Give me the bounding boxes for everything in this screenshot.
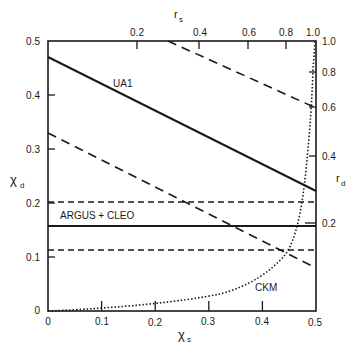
x-tick-label: 0.5 <box>308 317 322 328</box>
ua1-lower-dashed <box>48 133 316 268</box>
ua1-upper-dashed <box>168 41 316 108</box>
ckm-label: CKM <box>255 282 277 293</box>
right-axis <box>305 72 316 226</box>
y-tick-label: 0.4 <box>26 90 40 101</box>
ckm-curve <box>48 42 315 311</box>
argus-cleo-label: ARGUS + CLEO <box>60 210 134 221</box>
svg-text:s: s <box>187 335 191 344</box>
top-tick-label: 0.4 <box>193 27 207 38</box>
top-tick-label: 0.8 <box>279 27 293 38</box>
y-tick-label: 0.1 <box>26 252 40 263</box>
svg-text:s: s <box>179 15 183 24</box>
y-axis-title: χ d <box>10 172 24 190</box>
plot-frame <box>48 41 316 311</box>
x-tick-label: 0.3 <box>201 316 215 327</box>
x-axis-title: χ s <box>178 327 191 344</box>
svg-text:r: r <box>336 172 340 184</box>
top-axis <box>137 41 286 49</box>
right-tick-label: 0.4 <box>322 151 336 162</box>
svg-text:d: d <box>20 181 24 190</box>
svg-text:d: d <box>341 179 345 188</box>
svg-text:χ: χ <box>10 172 17 187</box>
x-tick-label: 0.1 <box>95 316 109 327</box>
y-tick-label: 0.2 <box>26 198 40 209</box>
x-tick-label: 0 <box>45 316 51 327</box>
y-tick-label: 0.5 <box>26 36 40 47</box>
x-tick-label: 0.2 <box>148 317 162 328</box>
series-group <box>48 41 316 311</box>
top-tick-label: 1.0 <box>306 27 320 38</box>
top-axis-title: r s <box>174 8 183 24</box>
ua1-line <box>48 57 316 191</box>
right-tick-label: 0.2 <box>322 218 336 229</box>
ua1-label: UA1 <box>113 78 133 89</box>
chart: 0 0.1 0.2 0.3 0.4 0.5 χ s 0 0.1 0.2 0.3 … <box>0 0 356 350</box>
x-tick-label: 0.4 <box>255 316 269 327</box>
left-axis <box>48 95 55 257</box>
y-tick-label: 0 <box>34 305 40 316</box>
right-tick-label: 1.0 <box>322 36 336 47</box>
y-tick-label: 0.3 <box>26 144 40 155</box>
right-axis-title: r d <box>336 172 345 188</box>
top-tick-label: 0.6 <box>242 27 256 38</box>
svg-text:r: r <box>174 8 178 20</box>
right-tick-label: 0.6 <box>322 102 336 113</box>
right-tick-label: 0.8 <box>322 67 336 78</box>
svg-text:χ: χ <box>178 327 185 342</box>
top-tick-label: 0.2 <box>130 27 144 38</box>
